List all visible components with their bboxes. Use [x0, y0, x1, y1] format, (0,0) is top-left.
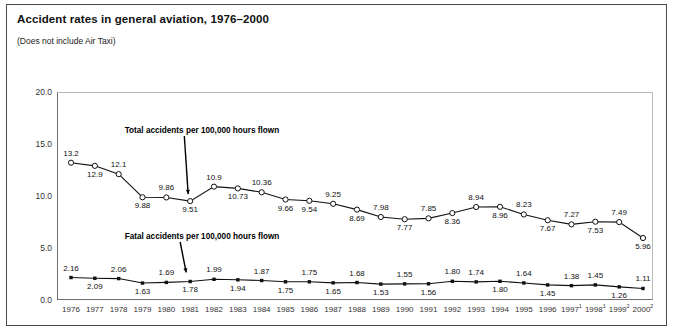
y-axis-tick-label: 15.0	[6, 139, 52, 149]
chart-figure: Accident rates in general aviation, 1976…	[0, 0, 673, 330]
x-axis-tick-label: 1995	[515, 305, 533, 314]
y-axis-tick-label: 5.0	[6, 243, 52, 253]
x-axis-tick-label: 19992	[609, 305, 630, 314]
x-axis-tick-label: 1989	[372, 305, 390, 314]
x-axis-tick-label: 19981	[585, 305, 606, 314]
x-axis-tick-label: 1985	[277, 305, 295, 314]
y-axis-tick-label: 0.0	[6, 295, 52, 305]
chart-title: Accident rates in general aviation, 1976…	[17, 13, 269, 25]
x-axis-tick-label: 1996	[539, 305, 557, 314]
x-axis-tick-label: 20002	[633, 305, 654, 314]
x-tick-footnote-marker: 1	[603, 303, 606, 309]
y-axis: 0.05.010.015.020.0	[0, 92, 52, 300]
x-axis-tick-label: 19971	[561, 305, 582, 314]
annotation-arrow-shaft	[180, 242, 186, 272]
x-axis-tick-label: 1978	[110, 305, 128, 314]
x-axis-tick-label: 1979	[134, 305, 152, 314]
x-axis-tick-label: 1983	[229, 305, 247, 314]
x-tick-footnote-marker: 2	[627, 303, 630, 309]
x-axis-tick-label: 1982	[205, 305, 223, 314]
x-axis-tick-label: 1977	[86, 305, 104, 314]
annotation-arrow-head	[186, 190, 190, 194]
x-axis-tick-label: 1992	[443, 305, 461, 314]
x-axis-tick-label: 1986	[300, 305, 318, 314]
x-axis: 1976197719781979198019811982198319841985…	[57, 305, 653, 321]
x-axis-tick-label: 1988	[348, 305, 366, 314]
annotation-arrow-shaft	[184, 136, 188, 194]
x-tick-footnote-marker: 1	[579, 303, 582, 309]
x-axis-tick-label: 1994	[491, 305, 509, 314]
x-axis-tick-label: 1993	[467, 305, 485, 314]
x-axis-tick-label: 1980	[157, 305, 175, 314]
x-axis-tick-label: 1991	[420, 305, 438, 314]
x-axis-tick-label: 1981	[181, 305, 199, 314]
annotation-arrows	[57, 92, 653, 300]
x-axis-tick-label: 1976	[62, 305, 80, 314]
x-tick-footnote-marker: 2	[650, 303, 653, 309]
x-axis-tick-label: 1987	[324, 305, 342, 314]
x-axis-tick-label: 1990	[396, 305, 414, 314]
y-axis-tick-label: 20.0	[6, 87, 52, 97]
x-axis-tick-label: 1984	[253, 305, 271, 314]
chart-subtitle: (Does not include Air Taxi)	[17, 36, 116, 46]
y-axis-tick-label: 10.0	[6, 191, 52, 201]
plot-area: 13.212.912.19.889.869.5110.910.7310.369.…	[57, 92, 653, 300]
